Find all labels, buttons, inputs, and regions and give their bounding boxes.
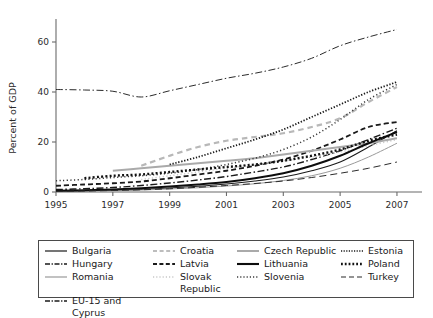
legend-line-sample-icon — [153, 245, 175, 257]
legend-line-sample-icon — [237, 258, 259, 270]
legend-line-sample-icon — [341, 245, 363, 257]
legend-spacer — [153, 295, 237, 308]
legend-label: Bulgaria — [72, 245, 111, 257]
x-tick-label: 1999 — [158, 200, 181, 210]
legend-grid: BulgariaCroatiaCzech RepublicEstoniaHung… — [39, 241, 413, 308]
legend-item-romania[interactable]: Romania — [45, 271, 153, 284]
legend-item-slovenia[interactable]: Slovenia — [237, 271, 341, 284]
legend-label: Slovenia — [264, 271, 304, 283]
legend-item-croatia[interactable]: Croatia — [153, 245, 237, 258]
legend-label: Slovak Republic — [180, 271, 221, 294]
x-tick-label: 2007 — [385, 200, 408, 210]
x-tick-label: 2001 — [215, 200, 238, 210]
y-tick-label: 20 — [38, 137, 50, 147]
x-tick-label: 2005 — [329, 200, 352, 210]
legend-item-poland[interactable]: Poland — [341, 258, 417, 271]
legend-line-sample-icon — [237, 245, 259, 257]
legend-line-sample-icon — [45, 245, 67, 257]
x-tick-label: 1997 — [101, 200, 124, 210]
legend-label: Croatia — [180, 245, 214, 257]
legend-label: Hungary — [72, 258, 113, 270]
legend-line-sample-icon — [45, 295, 67, 307]
legend-item-estonia[interactable]: Estonia — [341, 245, 417, 258]
y-tick-label: 0 — [43, 187, 49, 197]
chart-legend: BulgariaCroatiaCzech RepublicEstoniaHung… — [38, 240, 414, 298]
legend-label: Poland — [368, 258, 400, 270]
y-axis-label: Percent of GDP — [7, 82, 18, 154]
legend-line-sample-icon — [45, 271, 67, 283]
x-tick-label: 1995 — [45, 200, 68, 210]
legend-label: Romania — [72, 271, 114, 283]
legend-item-bulgaria[interactable]: Bulgaria — [45, 245, 153, 258]
legend-label: Lithuania — [264, 258, 308, 270]
data-series-layer — [56, 30, 397, 192]
axis-layer — [52, 19, 422, 196]
legend-label: Czech Republic — [264, 245, 336, 257]
x-tick-label: 2003 — [272, 200, 295, 210]
legend-line-sample-icon — [45, 258, 67, 270]
legend-item-slovak-republic[interactable]: Slovak Republic — [153, 271, 237, 295]
series-line-eu-15-and-cyprus — [56, 30, 397, 98]
series-line-estonia — [170, 82, 397, 165]
legend-item-latvia[interactable]: Latvia — [153, 258, 237, 271]
legend-line-sample-icon — [341, 258, 363, 270]
legend-label: EU-15 and Cyprus — [72, 295, 153, 318]
legend-line-sample-icon — [153, 271, 175, 283]
legend-item-czech-republic[interactable]: Czech Republic — [237, 245, 341, 258]
legend-item-turkey[interactable]: Turkey — [341, 271, 417, 284]
legend-line-sample-icon — [237, 271, 259, 283]
legend-label: Estonia — [368, 245, 403, 257]
y-tick-label: 60 — [38, 37, 50, 47]
legend-label: Turkey — [368, 271, 399, 283]
series-line-poland — [84, 135, 397, 179]
legend-line-sample-icon — [341, 271, 363, 283]
legend-item-eu-15-and-cyprus[interactable]: EU-15 and Cyprus — [45, 295, 153, 308]
legend-spacer — [341, 295, 417, 308]
series-line-croatia — [141, 87, 397, 166]
legend-label: Latvia — [180, 258, 209, 270]
legend-line-sample-icon — [153, 258, 175, 270]
legend-spacer — [237, 295, 341, 308]
legend-item-lithuania[interactable]: Lithuania — [237, 258, 341, 271]
legend-item-hungary[interactable]: Hungary — [45, 258, 153, 271]
y-tick-label: 40 — [38, 87, 50, 97]
